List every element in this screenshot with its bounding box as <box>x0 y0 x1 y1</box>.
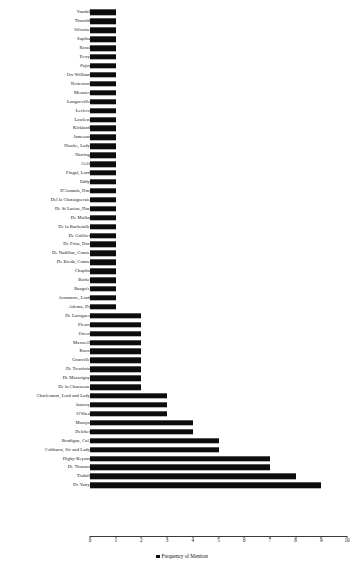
chart-legend: Frequency of Mention <box>0 554 364 559</box>
bar-track <box>90 365 358 374</box>
bar-track <box>90 213 358 222</box>
category-label: Digby-Beyont <box>63 456 90 461</box>
bar-row: Delchet <box>0 427 364 436</box>
bar-row: Del la Chataigneraie <box>0 195 364 204</box>
bar-row: Gelf <box>0 160 364 169</box>
bar-track <box>90 338 358 347</box>
bar-track <box>90 329 358 338</box>
bar-row: Charlemont, Lord and Lady <box>0 392 364 401</box>
category-label: De Macarigny <box>63 376 90 381</box>
x-axis-tick-label: 0 <box>89 538 92 543</box>
bar-row: Rossi <box>0 44 364 53</box>
bar-track <box>90 62 358 71</box>
bar-row: Meunier <box>0 88 364 97</box>
bar <box>90 108 116 113</box>
bar-row: Eddy <box>0 178 364 187</box>
bar <box>90 277 116 282</box>
category-label: Hawke, Lady <box>64 144 90 149</box>
bar-track <box>90 454 358 463</box>
category-label: Burke <box>78 278 90 283</box>
bar-track <box>90 320 358 329</box>
bar <box>90 420 193 425</box>
category-label: Gelf <box>82 162 90 167</box>
bar-track <box>90 392 358 401</box>
category-label: Janscry <box>76 403 90 408</box>
bar-track <box>90 481 358 490</box>
bar <box>90 376 141 381</box>
bar-track <box>90 195 358 204</box>
bar-track <box>90 35 358 44</box>
category-label: De Gallifet <box>69 233 90 238</box>
legend-swatch-icon <box>156 555 159 558</box>
bar-track <box>90 186 358 195</box>
bar <box>90 63 116 68</box>
bar-row: D'Aumala, Duc <box>0 186 364 195</box>
bar-row: Silvaine <box>0 26 364 35</box>
bar-track <box>90 285 358 294</box>
bar <box>90 170 116 175</box>
category-label: Colthurst, Sir and Lady <box>45 447 90 452</box>
category-label: Charlemont, Lord and Lady <box>37 394 90 399</box>
bar-row: De la Bachetalle <box>0 222 364 231</box>
bar-row: De Thouars <box>0 463 364 472</box>
bar-row: Hawke, Lady <box>0 142 364 151</box>
plot-area: VandalThoroldSilvaineSapihaRossiPerryPaj… <box>0 8 364 536</box>
category-label: Granville <box>72 358 90 363</box>
bar-row: Fingal, Lord <box>0 169 364 178</box>
bar <box>90 349 141 354</box>
bar-track <box>90 160 358 169</box>
bar-track <box>90 436 358 445</box>
bar <box>90 90 116 95</box>
bar-track <box>90 240 358 249</box>
category-label: Delchet <box>75 429 90 434</box>
category-label: Harring <box>75 153 90 158</box>
category-label: De Trentinia <box>66 367 90 372</box>
bar <box>90 358 141 363</box>
bar-track <box>90 142 358 151</box>
bar-row: Pleurs <box>0 320 364 329</box>
bar <box>90 483 321 488</box>
bar-row: Netterorst <box>0 79 364 88</box>
bar <box>90 474 296 479</box>
bar-row: De Molka <box>0 213 364 222</box>
bar <box>90 447 219 452</box>
x-axis-tick-label: 4 <box>192 538 195 543</box>
bar-row: Sapiha <box>0 35 364 44</box>
x-axis-tick-labels: 012345678910 <box>0 538 364 550</box>
bar <box>90 367 141 372</box>
bar-row: Owen <box>0 329 364 338</box>
bar <box>90 81 116 86</box>
bar-track <box>90 249 358 258</box>
bar-row: Pajot <box>0 62 364 71</box>
bar-row: Avonmore, Lord <box>0 294 364 303</box>
bar-row: Perry <box>0 53 364 62</box>
bar-row: De Vatry <box>0 481 364 490</box>
bar <box>90 340 141 345</box>
bar <box>90 286 116 291</box>
bar-rows-container: VandalThoroldSilvaineSapihaRossiPerryPaj… <box>0 8 364 490</box>
bar-track <box>90 97 358 106</box>
x-axis-tick-label: 7 <box>269 538 272 543</box>
bar <box>90 206 116 211</box>
bar <box>90 251 116 256</box>
bar-track <box>90 374 358 383</box>
bar-row: Orr William <box>0 70 364 79</box>
bar-track <box>90 204 358 213</box>
bar <box>90 215 116 220</box>
bar-track <box>90 276 358 285</box>
bar-row: Vandal <box>0 8 364 17</box>
bar-track <box>90 70 358 79</box>
legend-label: Frequency of Mention <box>162 554 208 559</box>
category-label: Lawless <box>74 117 90 122</box>
x-axis-tick-label: 3 <box>166 538 169 543</box>
bar-track <box>90 26 358 35</box>
bar <box>90 268 116 273</box>
category-label: De St Lucias, Duc <box>55 206 90 211</box>
category-label: Tisdall <box>77 474 90 479</box>
bar <box>90 126 116 131</box>
bar-track <box>90 169 358 178</box>
bar-track <box>90 151 358 160</box>
category-label: De la Bachetalle <box>58 224 90 229</box>
category-label: Silvaine <box>74 28 90 33</box>
category-label: De la Chausesue <box>58 385 90 390</box>
